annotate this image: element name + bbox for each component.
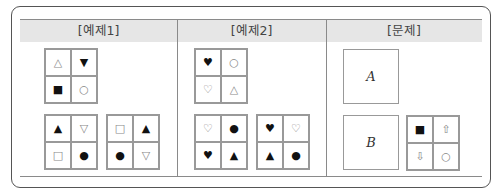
white-triangle-up-icon: △	[221, 76, 247, 103]
white-circle-icon: ○	[433, 143, 459, 170]
example1-bottom-right-grid: □ ▲ ● ▽	[106, 114, 160, 170]
white-circle-icon: ○	[71, 76, 97, 103]
white-arrow-up-icon: ⇧	[433, 116, 459, 143]
white-heart-icon: ♡	[195, 76, 221, 103]
answer-box-a: A	[343, 49, 399, 104]
black-triangle-up-icon: ▲	[221, 142, 247, 169]
black-heart-icon: ♥	[257, 115, 283, 142]
black-triangle-up-icon: ▲	[257, 142, 283, 169]
example2-bottom-right-grid: ♥ ♡ ▲ ●	[256, 114, 310, 170]
column-divider	[177, 19, 178, 176]
black-square-icon: ■	[407, 116, 433, 143]
example2-top-grid: ♥ ○ ♡ △	[194, 48, 248, 104]
example2-bottom-left-grid: ♡ ● ♥ ▲	[194, 114, 248, 170]
answer-box-b: B	[343, 115, 399, 170]
white-heart-icon: ♡	[195, 115, 221, 142]
black-circle-icon: ●	[107, 142, 133, 169]
black-heart-icon: ♥	[195, 142, 221, 169]
black-triangle-up-icon: ▲	[133, 115, 159, 142]
white-triangle-down-icon: ▽	[71, 115, 97, 142]
white-triangle-down-icon: ▽	[133, 142, 159, 169]
example1-bottom-left-grid: ▲ ▽ □ ●	[44, 114, 98, 170]
white-square-icon: □	[45, 142, 71, 169]
black-circle-icon: ●	[221, 115, 247, 142]
header-problem: [문제]	[326, 20, 482, 42]
header-example1: [예제1]	[20, 20, 177, 42]
black-triangle-down-icon: ▼	[71, 49, 97, 76]
black-circle-icon: ●	[71, 142, 97, 169]
header-example2: [예제2]	[177, 20, 326, 42]
white-arrow-down-icon: ⇩	[407, 143, 433, 170]
black-heart-icon: ♥	[195, 49, 221, 76]
column-divider	[326, 19, 327, 176]
white-square-icon: □	[107, 115, 133, 142]
black-circle-icon: ●	[283, 142, 309, 169]
example1-top-grid: △ ▼ ■ ○	[44, 48, 98, 104]
white-heart-icon: ♡	[283, 115, 309, 142]
bottom-rule	[20, 176, 482, 177]
white-triangle-up-icon: △	[45, 49, 71, 76]
white-circle-icon: ○	[221, 49, 247, 76]
header-band: [예제1] [예제2] [문제]	[20, 19, 482, 42]
black-triangle-up-icon: ▲	[45, 115, 71, 142]
black-square-icon: ■	[45, 76, 71, 103]
problem-given-grid: ■ ⇧ ⇩ ○	[406, 115, 460, 171]
